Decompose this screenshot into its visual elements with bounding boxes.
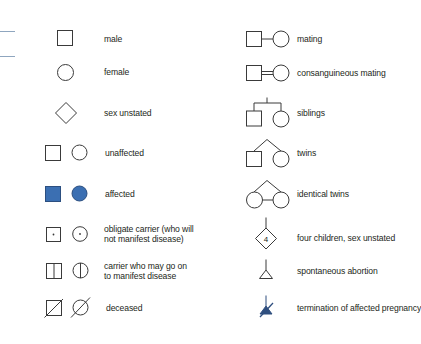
label-affected: affected <box>105 189 135 199</box>
label-carrier-manifest-line2: to manifest disease <box>104 271 176 281</box>
diamond-number: 4 <box>264 235 269 244</box>
affected-circle-icon <box>71 185 88 202</box>
label-siblings: siblings <box>297 108 325 118</box>
deceased-circle-icon <box>70 297 91 318</box>
consanguineous-mating-icon <box>246 64 290 82</box>
edge-rule-top <box>0 31 15 32</box>
obligate-carrier-circle-icon <box>72 226 88 242</box>
label-carrier-manifest-line1: carrier who may go on <box>104 261 187 271</box>
edge-rule-bottom <box>0 56 15 57</box>
mating-icon <box>246 30 290 48</box>
affected-square-icon <box>45 186 61 202</box>
spontaneous-abortion-triangle-icon <box>257 259 275 281</box>
obligate-carrier-square-icon <box>46 227 61 242</box>
female-circle-icon <box>57 64 74 81</box>
label-mating: mating <box>297 34 322 44</box>
termination-pregnancy-icon <box>256 295 276 319</box>
unaffected-square-icon <box>45 145 61 161</box>
label-deceased: deceased <box>106 303 142 313</box>
carrier-manifest-circle-icon <box>72 262 89 279</box>
twins-icon <box>246 139 290 169</box>
label-twins: twins <box>297 148 316 158</box>
siblings-icon <box>246 97 290 129</box>
label-male: male <box>104 34 122 44</box>
label-unaffected: unaffected <box>105 148 144 158</box>
sex-unstated-diamond-icon <box>55 102 77 124</box>
identical-twins-icon <box>246 180 290 210</box>
unaffected-circle-icon <box>71 144 88 161</box>
male-square-icon <box>57 30 73 46</box>
label-termination-pregnancy: termination of affected pregnancy <box>297 303 421 313</box>
label-identical-twins: identical twins <box>297 189 349 199</box>
label-spontaneous-abortion: spontaneous abortion <box>297 266 378 276</box>
deceased-square-icon <box>44 298 64 318</box>
four-children-diamond-icon: 4 <box>254 217 278 251</box>
label-consanguineous-mating: consanguineous mating <box>297 68 386 78</box>
label-four-children: four children, sex unstated <box>297 233 395 243</box>
label-sex-unstated: sex unstated <box>104 108 152 118</box>
label-obligate-carrier-line1: obligate carrier (who will <box>104 224 194 234</box>
carrier-manifest-square-icon <box>46 263 62 279</box>
label-obligate-carrier-line2: not manifest disease) <box>104 234 184 244</box>
label-female: female <box>104 67 129 77</box>
